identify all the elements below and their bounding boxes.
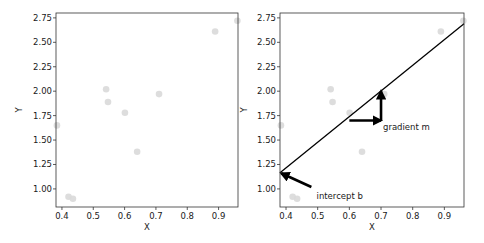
y-tick-label: 2.25: [33, 62, 52, 72]
y-axis-label: Y: [239, 107, 249, 114]
y-tick-label: 1.00: [257, 184, 276, 194]
y-tick-label: 2.50: [33, 37, 52, 47]
y-tick-label: 2.75: [257, 13, 276, 23]
axes-frame: [280, 13, 464, 207]
data-point: [278, 122, 285, 129]
annotation-arrow: [281, 173, 311, 187]
data-point: [212, 28, 219, 35]
y-tick-label: 1.25: [33, 159, 52, 169]
x-tick-label: 0.4: [279, 211, 293, 221]
y-tick-label: 1.00: [33, 184, 52, 194]
y-tick-label: 1.50: [257, 135, 276, 145]
x-tick-label: 0.8: [180, 211, 194, 221]
data-point: [234, 18, 241, 25]
left-scatter-axes: 0.40.50.60.70.80.91.001.251.501.752.002.…: [14, 13, 241, 232]
x-tick-label: 0.8: [406, 211, 420, 221]
y-tick-label: 2.00: [257, 86, 276, 96]
gradient-label: gradient m: [383, 122, 430, 132]
data-point: [359, 148, 366, 155]
data-point: [438, 28, 445, 35]
right-regression-axes: intercept bgradient m0.40.50.60.70.80.91…: [239, 13, 467, 232]
y-tick-label: 2.50: [257, 37, 276, 47]
x-tick-label: 0.9: [438, 211, 452, 221]
y-axis-label: Y: [14, 107, 24, 114]
data-point: [327, 86, 334, 93]
data-point: [460, 18, 467, 25]
data-point: [329, 99, 336, 106]
y-tick-label: 2.75: [33, 13, 52, 23]
x-axis-label: X: [144, 222, 150, 232]
x-tick-label: 0.6: [343, 211, 357, 221]
data-point: [70, 195, 77, 202]
data-point: [103, 86, 110, 93]
x-tick-label: 0.7: [149, 211, 163, 221]
y-tick-label: 1.25: [257, 159, 276, 169]
x-tick-label: 0.7: [374, 211, 388, 221]
x-tick-label: 0.9: [212, 211, 226, 221]
figure: 0.40.50.60.70.80.91.001.251.501.752.002.…: [0, 0, 484, 243]
data-point: [134, 148, 141, 155]
y-tick-label: 1.50: [33, 135, 52, 145]
x-tick-label: 0.5: [311, 211, 325, 221]
x-tick-label: 0.4: [55, 211, 69, 221]
x-tick-label: 0.5: [87, 211, 101, 221]
data-point: [54, 122, 61, 129]
x-tick-label: 0.6: [118, 211, 132, 221]
y-tick-label: 1.75: [257, 111, 276, 121]
regression-line: [280, 24, 464, 173]
y-tick-label: 2.00: [33, 86, 52, 96]
data-point: [122, 109, 129, 116]
data-point: [105, 99, 112, 106]
data-point: [156, 91, 163, 98]
data-point: [294, 195, 301, 202]
y-tick-label: 1.75: [33, 111, 52, 121]
x-axis-label: X: [369, 222, 375, 232]
axes-frame: [56, 13, 238, 207]
intercept-label: intercept b: [317, 191, 363, 201]
y-tick-label: 2.25: [257, 62, 276, 72]
